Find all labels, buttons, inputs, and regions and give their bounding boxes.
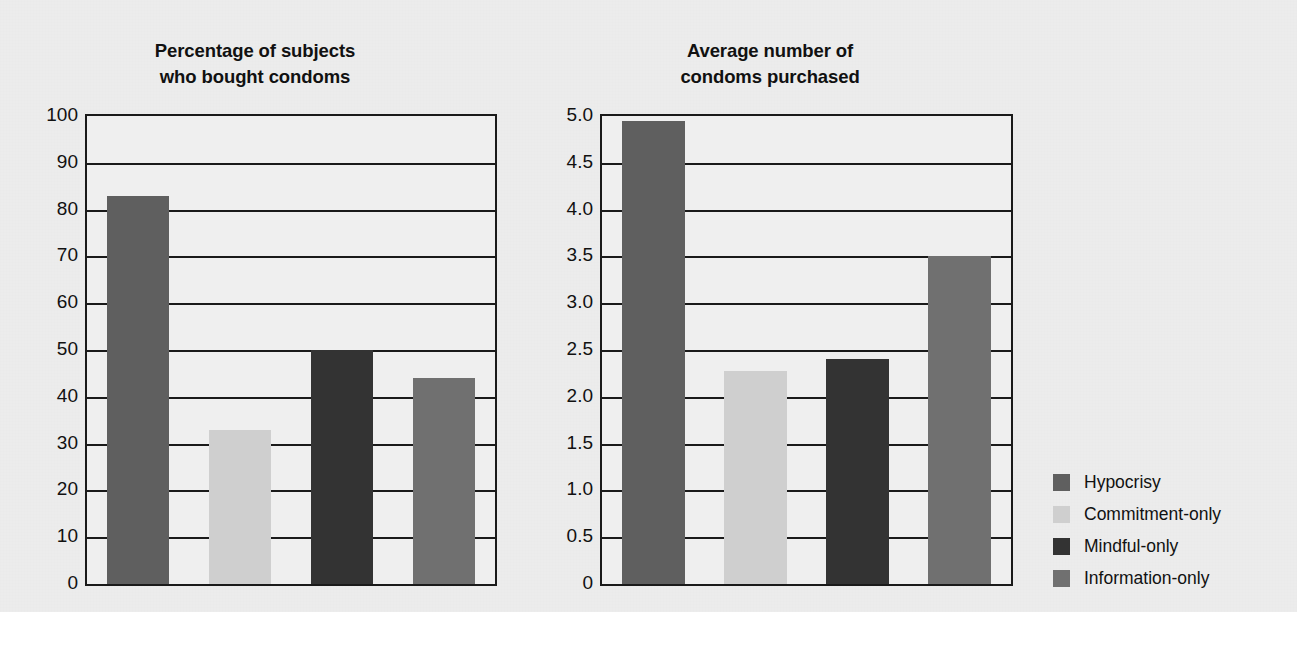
legend-swatch-icon xyxy=(1053,570,1070,587)
legend-label: Mindful-only xyxy=(1084,536,1178,557)
legend-item: Hypocrisy xyxy=(1053,466,1221,498)
y-tick-label: 2.0 xyxy=(567,385,593,407)
legend-label: Hypocrisy xyxy=(1084,472,1161,493)
y-tick-label: 4.0 xyxy=(567,198,593,220)
bar-mindful-only xyxy=(311,350,374,584)
bar-commitment-only xyxy=(209,430,272,584)
y-tick-label: 60 xyxy=(57,291,78,313)
plot-area-average xyxy=(600,114,1013,586)
legend-swatch-icon xyxy=(1053,538,1070,555)
y-tick-label: 1.0 xyxy=(567,478,593,500)
y-axis-average: 00.51.01.52.02.53.03.54.04.55.0 xyxy=(515,114,593,586)
legend-swatch-icon xyxy=(1053,474,1070,491)
y-tick-label: 20 xyxy=(57,478,78,500)
chart-panel-average: Average number of condoms purchased 00.5… xyxy=(515,0,1025,612)
bar-mindful-only xyxy=(826,359,889,584)
figure-canvas: Percentage of subjects who bought condom… xyxy=(0,0,1297,650)
y-tick-label: 2.5 xyxy=(567,338,593,360)
y-tick-label: 3.0 xyxy=(567,291,593,313)
y-tick-label: 40 xyxy=(57,385,78,407)
legend-swatch-icon xyxy=(1053,506,1070,523)
legend-label: Information-only xyxy=(1084,568,1209,589)
y-axis-percentage: 0102030405060708090100 xyxy=(0,114,78,586)
gridline xyxy=(87,163,495,165)
legend: HypocrisyCommitment-onlyMindful-onlyInfo… xyxy=(1053,466,1221,594)
chart-panel-percentage: Percentage of subjects who bought condom… xyxy=(0,0,510,612)
chart-title-percentage: Percentage of subjects who bought condom… xyxy=(0,38,510,90)
y-tick-label: 1.5 xyxy=(567,432,593,454)
y-tick-label: 0 xyxy=(67,572,78,594)
y-tick-label: 0 xyxy=(582,572,593,594)
bar-commitment-only xyxy=(724,371,787,584)
bar-hypocrisy xyxy=(107,196,170,584)
bar-information-only xyxy=(928,256,991,584)
bar-hypocrisy xyxy=(622,121,685,584)
y-tick-label: 30 xyxy=(57,432,78,454)
y-tick-label: 100 xyxy=(46,104,78,126)
plot-area-percentage xyxy=(85,114,497,586)
y-tick-label: 10 xyxy=(57,525,78,547)
y-tick-label: 70 xyxy=(57,244,78,266)
y-tick-label: 90 xyxy=(57,151,78,173)
legend-label: Commitment-only xyxy=(1084,504,1221,525)
y-tick-label: 0.5 xyxy=(567,525,593,547)
y-tick-label: 50 xyxy=(57,338,78,360)
legend-item: Mindful-only xyxy=(1053,530,1221,562)
y-tick-label: 3.5 xyxy=(567,244,593,266)
legend-item: Commitment-only xyxy=(1053,498,1221,530)
bar-information-only xyxy=(413,378,476,584)
y-tick-label: 4.5 xyxy=(567,151,593,173)
y-tick-label: 5.0 xyxy=(567,104,593,126)
y-tick-label: 80 xyxy=(57,198,78,220)
legend-item: Information-only xyxy=(1053,562,1221,594)
chart-title-average: Average number of condoms purchased xyxy=(515,38,1025,90)
